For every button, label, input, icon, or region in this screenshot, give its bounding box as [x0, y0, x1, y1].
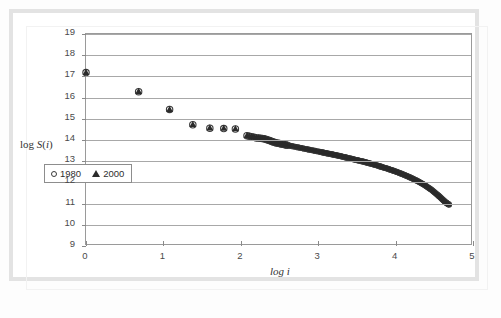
filled-triangle-icon — [92, 170, 100, 177]
gridline-y-13 — [86, 161, 471, 162]
x-axis-title-text: log i — [270, 265, 290, 277]
y-tick-label-15: 15 — [53, 111, 75, 122]
x-axis-title: log i — [270, 265, 290, 277]
x-tick-mark-2 — [241, 241, 242, 246]
y-tick-label-12: 12 — [53, 174, 75, 185]
y-tick-label-9: 9 — [53, 238, 75, 249]
chart-page: log S(i) log i 19802000 9101112131415161… — [0, 0, 501, 318]
y-tick-mark-17 — [82, 76, 86, 77]
x-tick-label-5: 5 — [462, 250, 482, 261]
gridline-y-10 — [86, 225, 471, 226]
y-axis-title-text: log S(i) — [20, 138, 53, 150]
data-point-2000 — [220, 125, 227, 131]
y-tick-mark-13 — [82, 161, 86, 162]
y-tick-label-14: 14 — [53, 132, 75, 143]
y-tick-label-19: 19 — [53, 26, 75, 37]
x-tick-label-1: 1 — [152, 250, 172, 261]
y-tick-label-11: 11 — [53, 196, 75, 207]
gridline-y-19 — [86, 34, 471, 35]
legend-entry-2000: 2000 — [92, 168, 124, 179]
x-tick-label-4: 4 — [385, 250, 405, 261]
y-tick-mark-11 — [82, 204, 86, 205]
y-tick-mark-9 — [82, 246, 86, 247]
y-tick-mark-16 — [82, 98, 86, 99]
gridline-y-16 — [86, 98, 471, 99]
y-tick-mark-10 — [82, 225, 86, 226]
gridline-y-14 — [86, 140, 471, 141]
data-point-2000 — [206, 124, 213, 130]
x-tick-label-3: 3 — [307, 250, 327, 261]
data-point-2000 — [232, 125, 239, 131]
gridline-y-11 — [86, 204, 471, 205]
data-point-2000 — [189, 121, 196, 127]
gridline-y-12 — [86, 182, 471, 183]
y-tick-mark-19 — [82, 34, 86, 35]
gridline-y-15 — [86, 119, 471, 120]
y-tick-label-10: 10 — [53, 217, 75, 228]
gridline-y-18 — [86, 55, 471, 56]
y-tick-label-13: 13 — [53, 153, 75, 164]
y-tick-label-18: 18 — [53, 47, 75, 58]
plot-area — [85, 33, 472, 245]
y-tick-mark-15 — [82, 119, 86, 120]
x-tick-mark-5 — [473, 241, 474, 246]
gridline-y-17 — [86, 76, 471, 77]
legend-label: 2000 — [103, 168, 124, 179]
y-tick-mark-14 — [82, 140, 86, 141]
x-tick-mark-0 — [86, 241, 87, 246]
x-tick-label-0: 0 — [75, 250, 95, 261]
y-tick-label-16: 16 — [53, 90, 75, 101]
x-tick-mark-1 — [163, 241, 164, 246]
y-tick-label-17: 17 — [53, 68, 75, 79]
x-tick-mark-3 — [318, 241, 319, 246]
data-point-2000 — [135, 88, 142, 94]
x-tick-label-2: 2 — [230, 250, 250, 261]
x-tick-mark-4 — [396, 241, 397, 246]
y-axis-title: log S(i) — [20, 138, 53, 150]
y-tick-mark-18 — [82, 55, 86, 56]
